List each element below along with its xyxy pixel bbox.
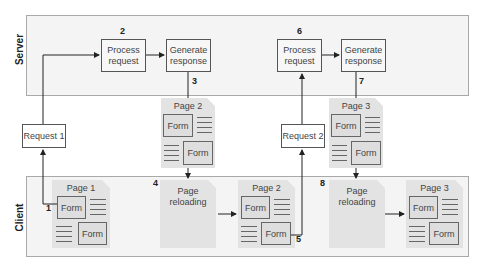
connector-arrows	[0, 0, 482, 266]
